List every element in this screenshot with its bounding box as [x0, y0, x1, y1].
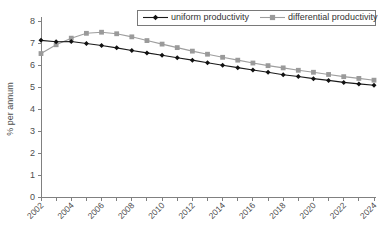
legend-marker-differential [270, 15, 275, 20]
data-point-uniform [266, 70, 271, 75]
data-point-uniform [372, 83, 377, 88]
data-point-differential [235, 58, 240, 63]
data-point-uniform [235, 65, 240, 70]
data-point-differential [160, 42, 165, 47]
data-point-uniform [311, 76, 316, 81]
data-point-uniform [39, 38, 44, 43]
data-point-differential [129, 34, 134, 39]
chart-legend: uniform productivitydifferential product… [137, 10, 378, 25]
data-point-differential [281, 65, 286, 70]
data-point-uniform [84, 41, 89, 46]
data-point-uniform [281, 72, 286, 77]
data-point-differential [114, 31, 119, 36]
data-point-uniform [250, 68, 255, 73]
x-tick-label: 2002 [25, 200, 46, 221]
data-point-differential [251, 61, 256, 66]
data-point-differential [190, 49, 195, 54]
data-point-differential [341, 74, 346, 79]
x-tick-label: 2008 [116, 200, 137, 221]
x-tick-label: 2018 [267, 200, 288, 221]
y-tick-label: 8 [30, 16, 35, 26]
x-tick-label: 2020 [297, 200, 318, 221]
y-tick-label: 6 [30, 60, 35, 70]
data-point-differential [266, 63, 271, 68]
data-point-uniform [99, 43, 104, 48]
line-chart: 012345678 200220042006200820102012201420… [0, 0, 380, 246]
data-point-differential [175, 45, 180, 50]
data-point-uniform [175, 55, 180, 60]
series-uniform [39, 38, 377, 88]
data-point-differential [356, 76, 361, 81]
data-series-group [39, 30, 377, 88]
x-tick-label: 2024 [358, 200, 379, 221]
y-axis-title-group: % per annum [5, 82, 15, 136]
x-axis: 2002200420062008201020122014201620182020… [25, 197, 379, 221]
x-tick-label: 2004 [55, 200, 76, 221]
data-point-differential [311, 70, 316, 75]
y-tick-label: 7 [30, 38, 35, 48]
data-point-uniform [190, 58, 195, 63]
data-point-uniform [114, 45, 119, 50]
data-point-uniform [129, 48, 134, 53]
data-point-differential [99, 30, 104, 35]
data-point-uniform [220, 63, 225, 68]
x-tick-label: 2016 [237, 200, 258, 221]
x-tick-label: 2010 [146, 200, 167, 221]
data-point-uniform [341, 80, 346, 85]
series-differential [39, 30, 377, 83]
data-point-differential [84, 31, 89, 36]
data-point-uniform [296, 74, 301, 79]
data-point-uniform [356, 81, 361, 86]
y-axis-title: % per annum [5, 82, 15, 136]
data-point-uniform [144, 50, 149, 55]
y-tick-label: 2 [30, 148, 35, 158]
x-tick-label: 2012 [176, 200, 197, 221]
y-tick-label: 4 [30, 104, 35, 114]
y-tick-label: 1 [30, 170, 35, 180]
data-point-uniform [205, 60, 210, 65]
chart-container: 012345678 200220042006200820102012201420… [0, 0, 380, 246]
legend-label-uniform: uniform productivity [171, 12, 250, 22]
data-point-differential [145, 38, 150, 43]
data-point-differential [326, 72, 331, 77]
y-tick-label: 5 [30, 82, 35, 92]
y-tick-label: 3 [30, 126, 35, 136]
data-point-differential [205, 52, 210, 57]
data-point-uniform [160, 53, 165, 58]
x-tick-label: 2014 [207, 200, 228, 221]
data-point-differential [39, 51, 44, 56]
data-point-differential [372, 78, 377, 83]
x-tick-label: 2006 [86, 200, 107, 221]
x-tick-label: 2022 [328, 200, 349, 221]
legend-label-differential: differential productivity [288, 12, 378, 22]
data-point-differential [296, 68, 301, 73]
y-axis: 012345678 [30, 16, 41, 202]
data-point-differential [220, 55, 225, 60]
data-point-uniform [326, 78, 331, 83]
y-tick-label: 0 [30, 192, 35, 202]
